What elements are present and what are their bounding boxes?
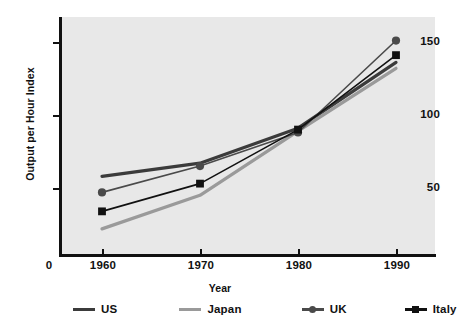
legend-label: UK [330,303,347,315]
legend-item-japan[interactable]: Japan [179,303,241,315]
y-tick-150 [53,42,60,44]
legend-label: US [101,303,117,315]
x-tick-1960 [102,249,104,255]
legend-item-uk[interactable]: UK [302,303,347,315]
x-axis-line [59,254,436,257]
x-tick-label-1980: 1980 [269,259,329,271]
y-tick-100 [53,115,60,117]
y-axis-title: Output per Hour Index [24,34,36,214]
plot-area [61,17,435,255]
legend-swatch-italy [405,303,427,315]
y-tick-label-100: 100 [394,108,440,120]
x-tick-1970 [200,249,202,255]
legend-line-icon [73,308,95,311]
legend-label: Japan [207,303,241,315]
legend-swatch-uk [302,303,324,315]
x-axis-title: Year [0,282,440,294]
y-tick-label-150: 150 [394,35,440,47]
y-axis-line [59,17,62,256]
x-tick-label-1970: 1970 [171,259,231,271]
y-tick-label-50: 50 [394,181,440,193]
y-tick-50 [53,188,60,190]
x-tick-label-1960: 1960 [73,259,133,271]
legend-label: Italy [433,303,457,315]
legend-swatch-us [73,303,95,315]
legend-item-us[interactable]: US [73,303,117,315]
legend-item-italy[interactable]: Italy [405,303,457,315]
legend-line-icon [179,308,201,311]
chart-legend: USJapanUKItaly [61,298,435,320]
legend-swatch-japan [179,303,201,315]
legend-square-marker-icon [412,306,419,313]
x-tick-1990 [396,249,398,255]
x-tick-label-1990: 1990 [367,259,427,271]
x-tick-1980 [298,249,300,255]
x-tick-label-origin: 0 [19,259,79,271]
legend-circle-marker-icon [309,306,316,313]
